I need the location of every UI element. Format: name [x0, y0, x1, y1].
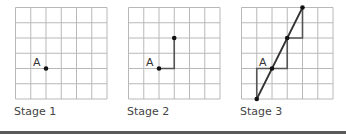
stage-label: Stage 3 — [240, 105, 282, 118]
bottom-divider — [0, 131, 346, 134]
point-a-label: A — [146, 56, 154, 69]
grid-diagram: A — [15, 7, 109, 101]
point-dot — [285, 36, 290, 41]
point-dot — [172, 36, 177, 41]
point-dot — [270, 66, 275, 71]
grid-lines — [16, 8, 108, 100]
point-dot — [44, 66, 49, 71]
point-dot — [157, 66, 162, 71]
grid-diagram: A — [128, 7, 222, 101]
grid-diagram: A — [241, 7, 335, 101]
point-a-label: A — [33, 56, 41, 69]
point-a-label: A — [259, 56, 267, 69]
stage-label: Stage 2 — [127, 105, 169, 118]
point-dot — [254, 97, 259, 102]
stage-label: Stage 1 — [14, 105, 56, 118]
point-dot — [300, 5, 305, 10]
